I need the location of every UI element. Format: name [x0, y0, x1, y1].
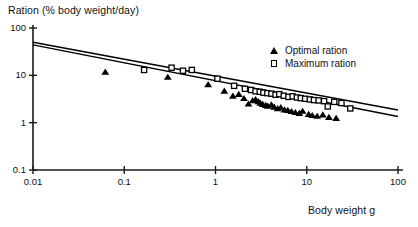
x-tick-label: 10: [287, 176, 327, 187]
data-point-optimal-ration: [101, 69, 109, 75]
y-tick-label: 0.1: [0, 164, 26, 175]
data-point-optimal-ration: [204, 81, 212, 87]
data-point-maximum-ration: [141, 67, 146, 72]
legend-label-maximum-ration: Maximum ration: [285, 58, 356, 69]
data-point-maximum-ration: [316, 98, 321, 103]
data-point-optimal-ration: [319, 111, 327, 117]
y-tick-label: 100: [0, 22, 26, 33]
data-point-maximum-ration: [215, 76, 220, 81]
data-point-optimal-ration: [235, 91, 243, 97]
legend-item-optimal-ration: Optimal ration: [269, 44, 356, 57]
chart-legend: Optimal ration Maximum ration: [269, 44, 356, 70]
filled-triangle-icon: [269, 47, 279, 54]
x-tick-label: 0.1: [104, 176, 144, 187]
data-point-maximum-ration: [169, 65, 174, 70]
data-point-maximum-ration: [322, 99, 327, 104]
data-point-maximum-ration: [348, 106, 353, 111]
x-tick-label: 0.01: [13, 176, 53, 187]
data-point-optimal-ration: [164, 74, 172, 80]
data-point-maximum-ration: [332, 99, 337, 104]
chart-container: Ration (% body weight/day) Body weight g…: [0, 0, 418, 227]
y-tick-label: 1: [0, 117, 26, 128]
plot-area: [0, 0, 418, 227]
data-point-maximum-ration: [180, 68, 185, 73]
legend-item-maximum-ration: Maximum ration: [269, 57, 356, 70]
data-points-group: [101, 65, 352, 121]
data-point-optimal-ration: [220, 87, 228, 93]
data-point-optimal-ration: [332, 115, 340, 121]
data-point-maximum-ration: [339, 100, 344, 105]
data-point-maximum-ration: [242, 86, 247, 91]
x-tick-label: 1: [196, 176, 236, 187]
data-point-maximum-ration: [232, 83, 237, 88]
data-point-maximum-ration: [325, 104, 330, 109]
data-point-optimal-ration: [229, 92, 237, 98]
legend-label-optimal-ration: Optimal ration: [285, 45, 347, 56]
x-tick-label: 100: [378, 176, 418, 187]
data-point-maximum-ration: [189, 67, 194, 72]
y-tick-label: 10: [0, 69, 26, 80]
open-square-icon: [269, 60, 279, 67]
